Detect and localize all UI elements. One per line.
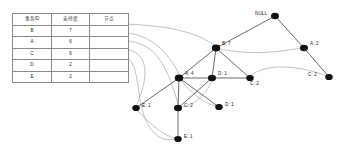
tree-node-d1b[interactable] [215, 104, 223, 110]
header-table-cell-support: 2 [52, 71, 90, 83]
header-table-cell-node-link [90, 60, 129, 72]
tree-node-label-root: NULL [255, 11, 267, 16]
tree-node-a2[interactable] [300, 45, 308, 52]
header-table-cell-support: 2 [52, 60, 90, 72]
tree-node-label-d1b: D: 1 [225, 102, 234, 107]
tree-node-c2b[interactable] [174, 105, 182, 112]
tree-node-d1m[interactable] [208, 75, 216, 82]
header-table-cell-node-link [90, 25, 129, 37]
node-link-pointer [137, 110, 175, 138]
header-table-cell-node-link [90, 37, 129, 49]
table-row: E2 [13, 71, 129, 83]
tree-node-c2r[interactable] [325, 74, 333, 80]
tree-node-label-c2m: C: 2 [250, 81, 259, 86]
node-link-pointer [125, 57, 176, 140]
column-header-item-id: 事务ID [13, 14, 52, 26]
table-body: B7A6C6D2E2 [13, 25, 129, 83]
header-table-cell-id: B [13, 25, 52, 37]
header-table-cell-id: D [13, 60, 52, 72]
header-table-cell-support: 6 [52, 48, 90, 60]
node-link-pointer [125, 33, 179, 74]
tree-node-a4[interactable] [175, 75, 183, 82]
tree-node-label-e1l: E: 1 [142, 103, 151, 108]
tree-node-e1b[interactable] [174, 136, 182, 142]
table-row: D2 [13, 60, 129, 72]
tree-node-label-e1b: E: 1 [184, 134, 193, 139]
tree-node-label-b7: B: 7 [222, 41, 231, 46]
table-row: A6 [13, 37, 129, 49]
header-table-cell-node-link [90, 48, 129, 60]
tree-node-b7[interactable] [212, 45, 220, 52]
tree-node-label-c2b: C: 2 [184, 103, 193, 108]
tree-node-label-c2r: C: 2 [308, 72, 317, 77]
fp-tree-diagram: 事务ID 支持度 节点 B7A6C6D2E2 NULLB: 7A: 2C: 2A… [0, 0, 345, 154]
header-table-cell-support: 7 [52, 25, 90, 37]
table-row: B7 [13, 25, 129, 37]
tree-node-label-a2: A: 2 [310, 41, 319, 46]
tree-node-group [132, 13, 333, 142]
column-header-node-link: 节点 [90, 14, 129, 26]
table-header-row: 事务ID 支持度 节点 [13, 14, 129, 26]
header-table-cell-id: C [13, 48, 52, 60]
tree-node-label-d1m: D: 1 [218, 71, 227, 76]
table-row: C6 [13, 48, 129, 60]
node-link-pointer [125, 41, 178, 104]
tree-node-e1l[interactable] [132, 105, 140, 111]
tree-node-root[interactable] [271, 13, 279, 20]
header-table-cell-node-link [90, 71, 129, 83]
tree-edge-group [136, 16, 329, 139]
tree-edge [178, 78, 179, 108]
header-table-cell-id: A [13, 37, 52, 49]
header-table-cell-id: E [13, 71, 52, 83]
header-table: 事务ID 支持度 节点 B7A6C6D2E2 [12, 13, 129, 83]
tree-edge [275, 16, 304, 48]
header-table-cell-support: 6 [52, 37, 90, 49]
column-header-support: 支持度 [52, 14, 90, 26]
tree-edge [212, 48, 216, 78]
tree-node-label-a4: A: 4 [185, 71, 194, 76]
node-link-pointer [216, 48, 302, 53]
